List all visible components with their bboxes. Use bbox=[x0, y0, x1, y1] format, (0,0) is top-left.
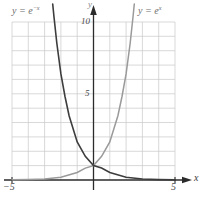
y-tick-label-5: 5 bbox=[85, 89, 90, 98]
x-tick-label-negative-5: −5 bbox=[3, 182, 15, 192]
y-tick-label-10: 10 bbox=[81, 17, 90, 26]
exponential-functions-figure: 10 5 −5 5 x y y = e−x y = ex bbox=[0, 0, 204, 200]
curve-e-to-the-x bbox=[12, 4, 134, 180]
curve-label-e-to-the-minus-x: y = e−x bbox=[12, 5, 40, 16]
curve-e-to-the-minus-x bbox=[53, 4, 175, 180]
chart-canvas bbox=[0, 0, 204, 200]
y-axis-name: y bbox=[88, 0, 92, 9]
x-axis-name: x bbox=[194, 173, 198, 183]
x-tick-label-5: 5 bbox=[171, 182, 176, 192]
curve-label-e-to-the-x: y = ex bbox=[138, 5, 161, 16]
